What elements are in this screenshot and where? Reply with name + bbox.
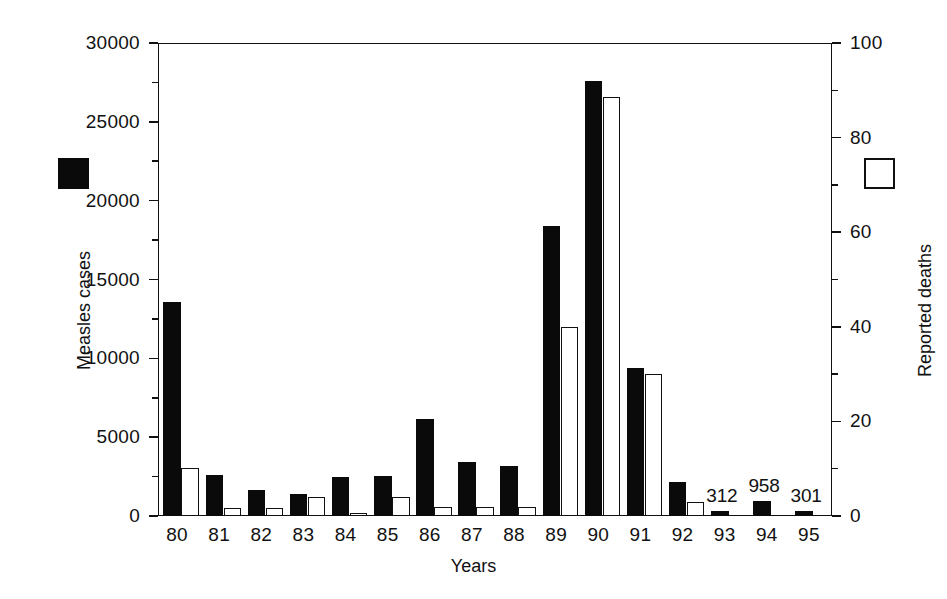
bar-measles-cases (163, 302, 181, 516)
bar-group (327, 43, 369, 516)
x-tick-label: 80 (166, 524, 188, 546)
bar-group (200, 43, 242, 516)
y-tick-right (832, 326, 841, 328)
y-tick-right (832, 231, 841, 233)
x-tick-label: 82 (250, 524, 272, 546)
y-tick-left (149, 121, 158, 123)
bar-group (453, 43, 495, 516)
bar-reported-deaths (266, 508, 284, 516)
y-tick-minor-right (832, 279, 838, 281)
y-tick-minor-left (152, 160, 158, 162)
bar-reported-deaths (476, 507, 494, 516)
bar-group (495, 43, 537, 516)
y-tick-left (149, 515, 158, 517)
y-tick-minor-left (152, 476, 158, 478)
bar-group (158, 43, 200, 516)
bar-group (537, 43, 579, 516)
bar-group (411, 43, 453, 516)
y-tick-label-right: 40 (850, 316, 872, 338)
bar-group (369, 43, 411, 516)
bar-group (790, 43, 832, 516)
bar-measles-cases (585, 81, 603, 516)
bar-reported-deaths (434, 507, 452, 516)
x-axis-title: Years (0, 556, 947, 577)
bar-measles-cases (500, 466, 518, 516)
bar-measles-cases (627, 368, 645, 516)
bar-measles-cases (416, 419, 434, 516)
bar-group (579, 43, 621, 516)
x-tick-label: 86 (419, 524, 441, 546)
y-tick-right (832, 515, 841, 517)
bar-reported-deaths (561, 327, 579, 516)
bar-measles-cases (669, 482, 687, 516)
y-tick-left (149, 436, 158, 438)
y-axis-title-right: Reported deaths (915, 201, 936, 421)
bar-measles-cases (332, 477, 350, 516)
legend-swatch-reported-deaths (864, 158, 895, 189)
bar-measles-cases (753, 501, 771, 516)
x-tick-label: 94 (756, 524, 778, 546)
y-tick-label-left: 0 (18, 505, 140, 527)
y-tick-label-left: 15000 (18, 269, 140, 291)
bar-value-label: 312 (706, 485, 737, 507)
x-tick-label: 90 (587, 524, 609, 546)
bar-group (284, 43, 326, 516)
x-tick-label: 89 (545, 524, 567, 546)
y-tick-minor-right (832, 90, 838, 92)
bar-measles-cases (248, 490, 266, 516)
y-tick-label-right: 60 (850, 221, 872, 243)
y-tick-right (832, 137, 841, 139)
y-tick-label-right: 20 (850, 410, 872, 432)
bar-value-label: 301 (791, 485, 822, 507)
y-tick-label-left: 20000 (18, 190, 140, 212)
y-tick-label-left: 30000 (18, 32, 140, 54)
bar-reported-deaths (518, 507, 536, 516)
bar-measles-cases (711, 511, 729, 516)
y-tick-right (832, 42, 841, 44)
x-tick-label: 91 (630, 524, 652, 546)
x-tick-label: 88 (503, 524, 525, 546)
bar-measles-cases (290, 494, 308, 516)
bar-measles-cases (206, 475, 224, 516)
x-tick-label: 87 (461, 524, 483, 546)
bars-layer: 312958301 (158, 43, 832, 516)
bar-reported-deaths (645, 374, 663, 516)
bar-reported-deaths (603, 97, 621, 516)
y-tick-left (149, 358, 158, 360)
y-tick-minor-left (152, 318, 158, 320)
bar-group (664, 43, 706, 516)
y-tick-minor-right (832, 373, 838, 375)
x-tick-label: 83 (293, 524, 315, 546)
x-tick-label: 92 (672, 524, 694, 546)
bar-measles-cases (374, 476, 392, 516)
x-tick-label: 85 (377, 524, 399, 546)
legend-swatch-measles-cases (58, 158, 89, 189)
y-tick-label-right: 0 (850, 505, 861, 527)
bar-reported-deaths (392, 497, 410, 516)
y-tick-minor-left (152, 239, 158, 241)
bar-group (242, 43, 284, 516)
y-tick-minor-right (832, 468, 838, 470)
y-tick-minor-left (152, 397, 158, 399)
y-tick-label-left: 25000 (18, 111, 140, 133)
y-tick-right (832, 421, 841, 423)
bar-reported-deaths (687, 502, 705, 516)
y-tick-left (149, 279, 158, 281)
y-axis-title-left: Measles cases (74, 211, 95, 411)
x-tick-label: 93 (714, 524, 736, 546)
bar-reported-deaths (350, 513, 368, 516)
y-tick-label-right: 100 (850, 32, 883, 54)
bar-measles-cases (543, 226, 561, 516)
bar-measles-cases (458, 462, 476, 516)
y-tick-left (149, 200, 158, 202)
bar-reported-deaths (181, 468, 199, 516)
x-tick-label: 81 (208, 524, 230, 546)
y-tick-left (149, 42, 158, 44)
y-tick-minor-right (832, 184, 838, 186)
bar-group (621, 43, 663, 516)
bar-reported-deaths (224, 508, 242, 517)
measles-chart-figure: Measles cases Reported deaths Years 3129… (0, 0, 947, 599)
y-tick-minor-left (152, 82, 158, 84)
bar-reported-deaths (308, 497, 326, 516)
bar-value-label: 958 (748, 475, 779, 497)
